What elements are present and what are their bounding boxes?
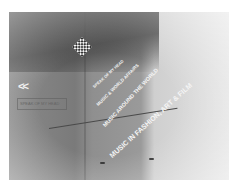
hero-background: << SPEAK OF MY HEAD SPEAK OF MY HEAD MUS… [9, 12, 229, 180]
section-label: SPEAK OF MY HEAD [17, 98, 67, 110]
vignette [9, 12, 229, 180]
back-arrow-icon[interactable]: << [18, 80, 27, 92]
